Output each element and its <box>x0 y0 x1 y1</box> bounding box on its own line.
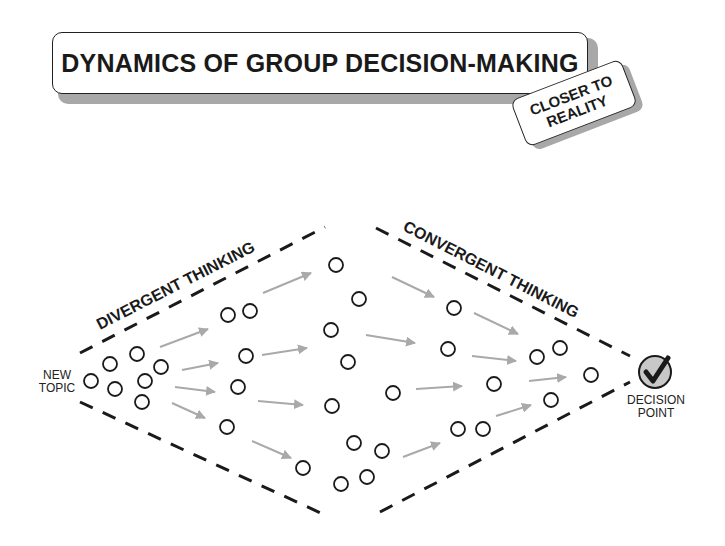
arrow-icon <box>403 443 440 457</box>
decision-point-line-2: POINT <box>621 407 691 420</box>
divergent-upper-boundary <box>80 227 325 353</box>
divergent-lower-boundary <box>80 402 325 515</box>
decision-diagram: DIVERGENT THINKING CONVERGENT THINKING <box>0 0 725 546</box>
arrow-icon <box>392 277 434 297</box>
arrow-icon <box>263 273 311 293</box>
arrow-icon <box>262 348 307 355</box>
arrow-icon <box>416 386 462 389</box>
convergent-thinking-label: CONVERGENT THINKING <box>401 218 582 322</box>
convergent-upper-boundary <box>376 228 630 356</box>
arrow-icon <box>175 387 215 392</box>
arrow-icon <box>160 329 208 347</box>
arrow-icon <box>496 405 531 416</box>
arrow-icon <box>172 403 205 418</box>
arrow-icon <box>529 377 566 381</box>
arrow-icon <box>182 363 218 370</box>
convergent-lower-boundary <box>380 382 630 512</box>
arrow-icon <box>472 356 516 361</box>
decision-point-label: DECISION POINT <box>621 394 691 420</box>
arrow-icon <box>252 441 291 458</box>
arrow-icon <box>366 335 415 343</box>
new-topic-line-2: TOPIC <box>34 382 80 395</box>
new-topic-label: NEW TOPIC <box>34 369 80 395</box>
arrow-icon <box>474 313 518 334</box>
arrow-icon <box>258 401 303 405</box>
decision-point-icon <box>639 356 671 388</box>
